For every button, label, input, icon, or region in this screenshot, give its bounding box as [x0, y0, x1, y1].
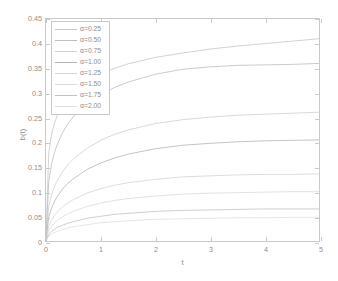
legend-line-icon — [55, 106, 77, 107]
legend-line-icon — [55, 40, 77, 41]
y-tick-mark — [46, 243, 50, 244]
y-tick-mark — [315, 19, 319, 20]
y-tick-label: 0.05 — [28, 215, 42, 222]
legend-item-label: α=2.00 — [80, 103, 101, 110]
x-tick-mark — [321, 237, 322, 241]
x-tick-mark — [101, 237, 102, 241]
legend-item[interactable]: α=1.75 — [52, 90, 109, 101]
legend-item[interactable]: α=1.50 — [52, 79, 109, 90]
y-tick-mark — [315, 143, 319, 144]
x-tick-mark — [211, 19, 212, 23]
y-tick-mark — [315, 69, 319, 70]
y-tick-mark — [315, 94, 319, 95]
legend-item-label: α=1.75 — [80, 92, 101, 99]
y-tick-mark — [315, 243, 319, 244]
y-tick-label: 0.3 — [32, 90, 42, 97]
y-tick-mark — [46, 193, 50, 194]
series-line — [46, 140, 319, 241]
legend-line-icon — [55, 95, 77, 96]
y-tick-mark — [46, 143, 50, 144]
y-tick-mark — [315, 168, 319, 169]
legend-item[interactable]: α=1.00 — [52, 57, 109, 68]
x-tick-mark — [156, 237, 157, 241]
y-tick-mark — [46, 218, 50, 219]
x-tick-label: 5 — [319, 246, 323, 253]
legend-line-icon — [55, 62, 77, 63]
legend-item[interactable]: α=0.25 — [52, 24, 109, 35]
x-tick-label: 2 — [154, 246, 158, 253]
legend-line-icon — [55, 51, 77, 52]
series-line — [46, 192, 319, 241]
y-tick-mark — [315, 218, 319, 219]
series-line — [46, 217, 319, 241]
y-tick-mark — [46, 168, 50, 169]
legend-line-icon — [55, 73, 77, 74]
legend-item-label: α=1.00 — [80, 59, 101, 66]
x-tick-mark — [46, 19, 47, 23]
legend-item-label: α=1.25 — [80, 70, 101, 77]
x-tick-label: 0 — [44, 246, 48, 253]
legend-item-label: α=0.75 — [80, 48, 101, 55]
x-tick-mark — [46, 237, 47, 241]
y-tick-mark — [46, 69, 50, 70]
y-tick-mark — [315, 119, 319, 120]
x-tick-label: 3 — [209, 246, 213, 253]
y-tick-label: 0.45 — [28, 15, 42, 22]
y-tick-label: 0.25 — [28, 115, 42, 122]
x-tick-mark — [266, 237, 267, 241]
legend-item[interactable]: α=0.75 — [52, 46, 109, 57]
y-tick-label: 0.4 — [32, 40, 42, 47]
legend: α=0.25α=0.50α=0.75α=1.00α=1.25α=1.50α=1.… — [51, 21, 110, 115]
y-tick-label: 0 — [38, 239, 42, 246]
legend-item[interactable]: α=2.00 — [52, 101, 109, 112]
legend-line-icon — [55, 84, 77, 85]
x-tick-mark — [211, 237, 212, 241]
legend-item[interactable]: α=0.50 — [52, 35, 109, 46]
series-line — [46, 174, 319, 241]
y-tick-mark — [315, 44, 319, 45]
y-tick-label: 0.35 — [28, 65, 42, 72]
legend-line-icon — [55, 29, 77, 30]
legend-item-label: α=0.50 — [80, 37, 101, 44]
figure: 00.050.10.150.20.250.30.350.40.45012345 … — [0, 0, 338, 281]
y-tick-label: 0.1 — [32, 190, 42, 197]
x-tick-mark — [156, 19, 157, 23]
legend-item[interactable]: α=1.25 — [52, 68, 109, 79]
x-tick-mark — [266, 19, 267, 23]
y-tick-mark — [46, 44, 50, 45]
x-axis-label: t — [45, 258, 320, 267]
y-tick-label: 0.15 — [28, 165, 42, 172]
x-tick-label: 1 — [99, 246, 103, 253]
y-tick-mark — [46, 94, 50, 95]
y-tick-mark — [46, 119, 50, 120]
y-tick-label: 0.2 — [32, 140, 42, 147]
legend-item-label: α=0.25 — [80, 26, 101, 33]
y-tick-mark — [315, 193, 319, 194]
y-axis-label: b(t) — [18, 105, 27, 165]
legend-item-label: α=1.50 — [80, 81, 101, 88]
x-tick-label: 4 — [264, 246, 268, 253]
x-tick-mark — [321, 19, 322, 23]
